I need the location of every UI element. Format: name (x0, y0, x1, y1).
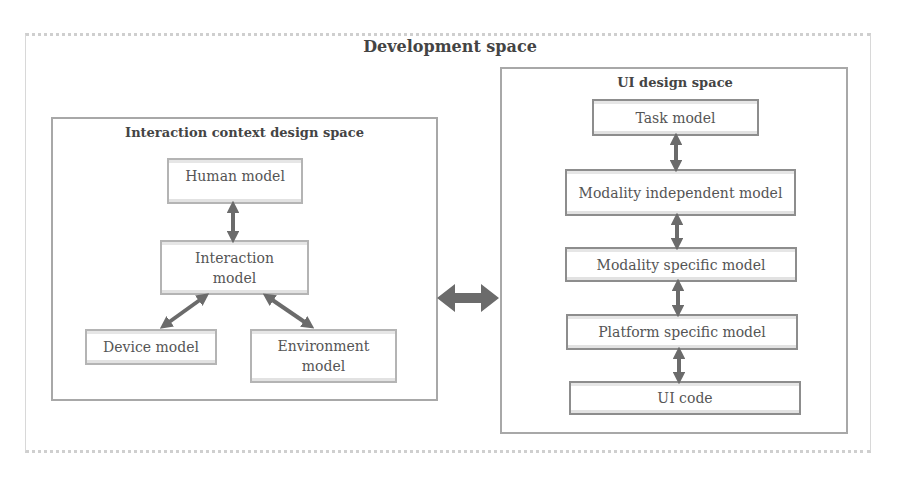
arrow-interaction-device-icon (165, 297, 204, 325)
connector-arrows (0, 0, 897, 477)
arrow-interaction-environment-icon (268, 297, 309, 325)
arrow-cross-space-icon (437, 284, 499, 312)
